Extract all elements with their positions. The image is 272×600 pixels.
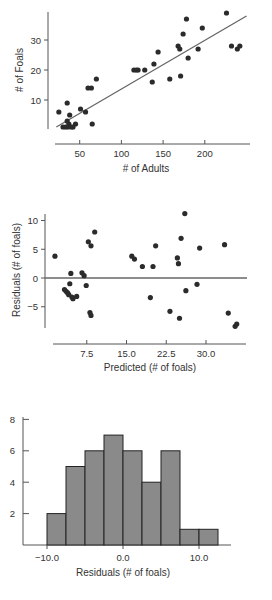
data-point <box>181 31 186 36</box>
data-point <box>150 264 155 269</box>
x-ticks: 7.515.022.530.0 <box>80 340 215 359</box>
histogram-bars <box>47 435 218 545</box>
data-point <box>67 281 72 286</box>
histogram-bar <box>47 514 66 545</box>
y-tick-label: 0 <box>33 273 38 284</box>
data-point <box>155 49 160 54</box>
data-point <box>90 121 95 126</box>
data-point <box>65 100 70 105</box>
data-point <box>82 273 87 278</box>
data-point <box>151 61 156 66</box>
data-point <box>74 294 79 299</box>
x-tick-label: 7.5 <box>80 348 93 359</box>
data-point <box>186 55 191 60</box>
data-point <box>197 246 202 251</box>
data-point <box>178 236 183 241</box>
data-point <box>68 271 73 276</box>
data-point <box>83 109 88 114</box>
data-point <box>78 106 83 111</box>
histogram-bar <box>199 529 218 545</box>
data-point <box>200 25 205 30</box>
data-point <box>176 261 181 266</box>
x-axis-title: Predicted (# of foals) <box>104 362 196 373</box>
residual-histogram: 2468 −10.00.010.0 Residuals (# of foals) <box>10 414 231 578</box>
x-tick-label: −10.0 <box>35 552 59 563</box>
y-ticks: 102030 <box>30 35 48 106</box>
data-point <box>88 243 93 248</box>
histogram-bar <box>180 529 199 545</box>
y-tick-label: 30 <box>30 35 41 46</box>
x-ticks: 50100150200 <box>74 140 212 159</box>
y-tick-label: 4 <box>10 477 15 488</box>
data-point <box>196 46 201 51</box>
data-point <box>92 229 97 234</box>
data-point <box>194 282 199 287</box>
data-point <box>56 109 61 114</box>
data-point <box>153 243 158 248</box>
histogram-bar <box>104 435 123 545</box>
y-ticks: 2468 <box>10 414 29 519</box>
data-point <box>67 112 72 117</box>
histogram-bar <box>66 467 85 546</box>
residual-plot: 1050−5 7.515.022.530.0 Predicted (# of f… <box>11 211 247 373</box>
data-point <box>89 85 94 90</box>
data-point <box>182 211 187 216</box>
x-tick-label: 50 <box>74 148 85 159</box>
data-point <box>177 316 182 321</box>
x-tick-label: 150 <box>155 148 171 159</box>
data-point <box>234 321 239 326</box>
data-point <box>52 254 57 259</box>
data-point <box>237 43 242 48</box>
data-points <box>56 10 242 129</box>
y-tick-label: −5 <box>27 301 38 312</box>
histogram-bar <box>123 451 142 545</box>
data-points <box>52 211 239 329</box>
data-point <box>183 288 188 293</box>
data-point <box>175 255 180 260</box>
y-axis-title: Residuals (# of foals) <box>11 223 22 317</box>
data-point <box>167 309 172 314</box>
y-tick-label: 20 <box>30 65 41 76</box>
y-ticks: 1050−5 <box>27 215 45 312</box>
data-point <box>94 76 99 81</box>
data-point <box>140 264 145 269</box>
x-axis-title: # of Adults <box>123 163 170 174</box>
data-point <box>88 313 93 318</box>
x-ticks: −10.00.010.0 <box>35 545 208 563</box>
data-point <box>73 121 78 126</box>
data-point <box>84 283 89 288</box>
y-tick-label: 5 <box>33 244 38 255</box>
data-point <box>142 67 147 72</box>
data-point <box>132 256 137 261</box>
x-tick-label: 10.0 <box>190 552 209 563</box>
data-point <box>222 242 227 247</box>
x-tick-label: 30.0 <box>197 348 216 359</box>
data-point <box>229 43 234 48</box>
x-tick-label: 200 <box>197 148 213 159</box>
histogram-bar <box>142 482 161 545</box>
x-tick-label: 0.0 <box>116 552 129 563</box>
y-tick-label: 8 <box>10 414 15 425</box>
data-point <box>150 79 155 84</box>
data-point <box>177 46 182 51</box>
x-tick-label: 15.0 <box>117 348 136 359</box>
scatter-plot-foals-vs-adults: 102030 50100150200 # of Adults # of Foal… <box>14 10 250 174</box>
data-point <box>184 16 189 21</box>
data-point <box>224 10 229 15</box>
x-tick-label: 100 <box>113 148 129 159</box>
y-tick-label: 6 <box>10 445 15 456</box>
chart-canvas: 102030 50100150200 # of Adults # of Foal… <box>0 0 272 600</box>
data-point <box>148 295 153 300</box>
histogram-bar <box>161 451 180 545</box>
y-axis-title: # of Foals <box>14 48 25 92</box>
histogram-bar <box>85 451 104 545</box>
data-point <box>135 67 140 72</box>
data-point <box>178 73 183 78</box>
y-tick-label: 2 <box>10 508 15 519</box>
data-point <box>167 76 172 81</box>
data-point <box>226 310 231 315</box>
x-tick-label: 22.5 <box>157 348 176 359</box>
y-tick-label: 10 <box>27 215 38 226</box>
y-tick-label: 10 <box>30 95 41 106</box>
x-axis-title: Residuals (# of foals) <box>76 567 170 578</box>
